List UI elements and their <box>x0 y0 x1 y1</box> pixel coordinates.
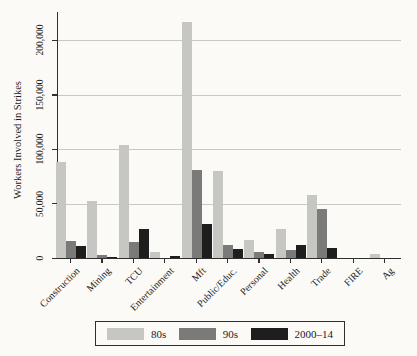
y-tick-label: 150,000 <box>35 79 45 110</box>
legend-label-2000-14: 2000–14 <box>295 328 334 340</box>
bar-public-educ-2000-14 <box>233 249 243 258</box>
bar-mining-90s <box>97 255 107 258</box>
x-tick-mark <box>196 259 197 263</box>
bar-trade-2000-14 <box>327 248 337 258</box>
x-category-label-personal: Personal <box>238 265 270 297</box>
legend-label-90s: 90s <box>223 328 238 340</box>
legend-item-2000-14: 2000–14 <box>251 328 334 340</box>
bar-mft-2000-14 <box>202 224 212 258</box>
y-tick-label: 50,000 <box>35 191 45 217</box>
bar-personal-2000-14 <box>264 254 274 258</box>
x-category-label-health: Health <box>275 265 302 292</box>
gridline-150000 <box>58 95 401 96</box>
bar-mft-90s <box>192 170 202 258</box>
gridline-200000 <box>58 40 401 41</box>
bar-tcu-80s <box>119 145 129 258</box>
y-tick-label: 100,000 <box>35 134 45 165</box>
legend: 80s90s2000–14 <box>95 321 345 346</box>
y-tick-mark <box>52 258 57 259</box>
bar-personal-90s <box>254 252 264 258</box>
x-category-label-tcu: TCU <box>123 265 145 287</box>
bar-construction-80s <box>56 162 66 258</box>
strikes-bar-chart-figure: Workers Involved in Strikes 050,000100,0… <box>0 0 417 356</box>
legend-label-80s: 80s <box>151 328 166 340</box>
x-category-label-mining: Mining <box>85 265 114 294</box>
legend-item-90s: 90s <box>179 328 238 340</box>
x-category-label-fire: FIRE <box>341 265 364 288</box>
legend-swatch-80s <box>107 328 144 340</box>
y-axis-title: Workers Involved in Strikes <box>12 81 23 199</box>
y-tick-mark <box>52 94 57 95</box>
bar-health-90s <box>286 250 296 258</box>
bar-ag-80s <box>370 254 380 258</box>
bar-health-2000-14 <box>296 245 306 258</box>
bar-construction-2000-14 <box>76 246 86 258</box>
gridline-50000 <box>58 204 401 205</box>
plot-area <box>57 12 401 259</box>
y-tick-mark <box>52 40 57 41</box>
x-tick-mark <box>353 259 354 263</box>
y-tick-label: 200,000 <box>35 25 45 56</box>
x-tick-mark <box>258 259 259 263</box>
bar-mining-80s <box>87 201 97 258</box>
x-category-label-ag: Ag <box>379 265 395 281</box>
bar-tcu-90s <box>129 242 139 258</box>
legend-item-80s: 80s <box>107 328 166 340</box>
bar-entertainment-2000-14 <box>170 256 180 258</box>
bar-mft-80s <box>182 22 192 258</box>
y-tick-mark <box>52 203 57 204</box>
x-tick-mark <box>290 259 291 263</box>
bar-entertainment-80s <box>150 252 160 258</box>
legend-swatch-90s <box>179 328 216 340</box>
gridline-100000 <box>58 149 401 150</box>
x-category-label-mft: Mft <box>189 265 207 283</box>
bar-public-educ-90s <box>223 245 233 258</box>
bar-trade-80s <box>307 195 317 258</box>
bar-public-educ-80s <box>213 171 223 258</box>
y-tick-label: 0 <box>35 256 45 261</box>
bar-health-80s <box>276 229 286 258</box>
bar-personal-80s <box>244 240 254 259</box>
y-tick-mark <box>52 149 57 150</box>
x-tick-mark <box>321 259 322 263</box>
legend-swatch-2000-14 <box>251 328 288 340</box>
bar-tcu-2000-14 <box>139 229 149 258</box>
x-category-label-construction: Construction <box>37 265 81 309</box>
bar-construction-90s <box>66 241 76 258</box>
x-tick-mark <box>70 259 71 263</box>
x-tick-mark <box>164 259 165 263</box>
x-tick-mark <box>384 259 385 263</box>
x-tick-mark <box>227 259 228 263</box>
x-tick-mark <box>133 259 134 263</box>
bar-trade-90s <box>317 209 327 258</box>
bar-mining-2000-14 <box>107 257 117 258</box>
x-category-label-trade: Trade <box>309 265 333 289</box>
x-tick-mark <box>101 259 102 263</box>
